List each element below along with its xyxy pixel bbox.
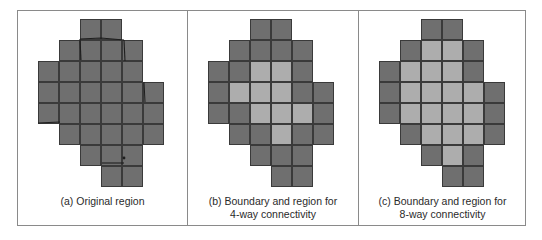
boundary-pixel <box>122 103 143 124</box>
boundary-pixel <box>442 19 463 40</box>
boundary-pixel <box>463 145 484 166</box>
interior-pixel <box>271 61 292 82</box>
boundary-pixel <box>271 19 292 40</box>
boundary-pixel <box>229 103 250 124</box>
boundary-pixel <box>143 82 164 103</box>
boundary-pixel <box>250 40 271 61</box>
boundary-pixel <box>38 103 59 124</box>
boundary-pixel <box>463 40 484 61</box>
pixel-grid <box>379 19 508 184</box>
boundary-pixel <box>250 145 271 166</box>
boundary-pixel <box>59 40 80 61</box>
interior-pixel <box>250 103 271 124</box>
boundary-pixel <box>143 103 164 124</box>
boundary-pixel <box>143 124 164 145</box>
boundary-pixel <box>292 61 313 82</box>
interior-pixel <box>421 103 442 124</box>
boundary-pixel <box>59 124 80 145</box>
boundary-pixel <box>80 61 101 82</box>
caption-line: 8-way connectivity <box>359 208 526 221</box>
boundary-pixel <box>59 103 80 124</box>
interior-pixel <box>442 145 463 166</box>
boundary-pixel <box>101 145 122 166</box>
boundary-pixel <box>208 103 229 124</box>
boundary-pixel <box>80 19 101 40</box>
boundary-pixel <box>484 103 505 124</box>
boundary-pixel <box>229 61 250 82</box>
caption-line: 4-way connectivity <box>188 208 358 221</box>
boundary-pixel <box>122 40 143 61</box>
interior-pixel <box>271 103 292 124</box>
boundary-pixel <box>271 40 292 61</box>
interior-pixel <box>292 103 313 124</box>
boundary-pixel <box>313 82 334 103</box>
interior-pixel <box>463 82 484 103</box>
boundary-pixel <box>229 124 250 145</box>
boundary-pixel <box>80 145 101 166</box>
boundary-pixel <box>421 19 442 40</box>
boundary-pixel <box>292 82 313 103</box>
boundary-pixel <box>313 124 334 145</box>
interior-pixel <box>421 40 442 61</box>
interior-pixel <box>271 82 292 103</box>
boundary-pixel <box>38 82 59 103</box>
interior-pixel <box>463 103 484 124</box>
boundary-pixel <box>80 124 101 145</box>
boundary-pixel <box>250 19 271 40</box>
boundary-pixel <box>292 124 313 145</box>
boundary-pixel <box>442 166 463 187</box>
interior-pixel <box>271 124 292 145</box>
panel-caption: (c) Boundary and region for 8-way connec… <box>359 195 526 221</box>
interior-pixel <box>442 124 463 145</box>
interior-pixel <box>442 61 463 82</box>
interior-pixel <box>421 124 442 145</box>
boundary-pixel <box>292 145 313 166</box>
boundary-pixel <box>484 82 505 103</box>
boundary-pixel <box>38 61 59 82</box>
boundary-pixel <box>80 40 101 61</box>
boundary-pixel <box>122 82 143 103</box>
interior-pixel <box>400 103 421 124</box>
boundary-pixel <box>59 82 80 103</box>
interior-pixel <box>250 61 271 82</box>
interior-pixel <box>421 82 442 103</box>
interior-pixel <box>400 82 421 103</box>
boundary-pixel <box>271 166 292 187</box>
boundary-pixel <box>292 166 313 187</box>
boundary-pixel <box>400 40 421 61</box>
interior-pixel <box>400 61 421 82</box>
boundary-pixel <box>208 82 229 103</box>
panel-caption: (b) Boundary and region for 4-way connec… <box>188 195 358 221</box>
panel-8-way-connectivity: (c) Boundary and region for 8-way connec… <box>359 10 526 226</box>
boundary-pixel <box>421 145 442 166</box>
boundary-pixel <box>122 124 143 145</box>
boundary-pixel <box>101 40 122 61</box>
boundary-pixel <box>379 103 400 124</box>
boundary-pixel <box>484 124 505 145</box>
panel-original-region: (a) Original region <box>18 10 187 226</box>
boundary-pixel <box>101 103 122 124</box>
interior-pixel <box>442 82 463 103</box>
boundary-pixel <box>80 103 101 124</box>
boundary-pixel <box>292 40 313 61</box>
boundary-pixel <box>59 61 80 82</box>
boundary-pixel <box>208 61 229 82</box>
interior-pixel <box>442 103 463 124</box>
boundary-pixel <box>101 61 122 82</box>
boundary-pixel <box>80 82 101 103</box>
boundary-pixel <box>101 82 122 103</box>
interior-pixel <box>229 82 250 103</box>
panel-4-way-connectivity: (b) Boundary and region for 4-way connec… <box>188 10 358 226</box>
boundary-pixel <box>400 124 421 145</box>
boundary-pixel <box>313 103 334 124</box>
interior-pixel <box>442 40 463 61</box>
boundary-pixel <box>101 124 122 145</box>
boundary-pixel <box>122 61 143 82</box>
boundary-pixel <box>101 166 122 187</box>
pixel-grid <box>208 19 337 184</box>
boundary-pixel <box>271 145 292 166</box>
interior-pixel <box>250 82 271 103</box>
boundary-pixel <box>101 19 122 40</box>
caption-line: (b) Boundary and region for <box>188 195 358 208</box>
boundary-pixel <box>122 145 143 166</box>
